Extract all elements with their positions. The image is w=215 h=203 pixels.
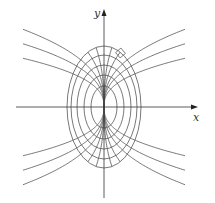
trajectory-curve [23,107,104,185]
trajectory-curve [23,44,104,107]
trajectory-curve [104,29,185,107]
trajectory-curve [23,107,104,170]
y-axis-arrowhead [102,9,107,16]
trajectory-curve [23,29,104,107]
trajectory-curve [104,107,185,170]
trajectory-curve [104,107,185,185]
orthogonal-trajectories-diagram [0,0,215,203]
trajectory-curve [23,3,104,107]
x-axis-arrowhead [191,105,198,110]
trajectory-curve [104,3,185,107]
y-axis-label: y [94,8,100,19]
x-axis-label: x [193,112,199,123]
trajectory-curve [23,0,104,107]
